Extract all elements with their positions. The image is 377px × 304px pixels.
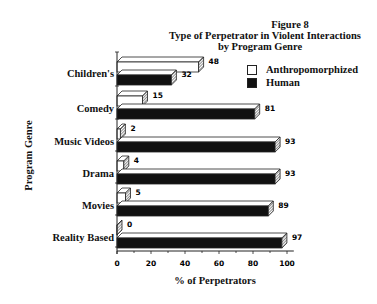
- x-tick-label: 100: [279, 259, 295, 268]
- bar-chart-plot: 48321581293493589097020406080100: [0, 0, 377, 304]
- bar-value-label: 89: [278, 201, 288, 210]
- legend-label: Anthropomorphized: [266, 64, 358, 75]
- bar-value-label: 32: [181, 70, 191, 79]
- bar-human: 32: [117, 70, 192, 85]
- bar-value-label: 4: [134, 156, 139, 165]
- x-tick-label: 40: [180, 259, 190, 268]
- bar-value-label: 0: [127, 220, 132, 229]
- legend-swatch-black: [247, 78, 257, 88]
- bar-value-label: 93: [285, 169, 295, 178]
- bar-human: 93: [117, 137, 296, 152]
- bar-value-label: 15: [153, 91, 163, 100]
- bar-value-label: 97: [292, 233, 302, 242]
- bar-human: 81: [117, 104, 275, 119]
- x-tick-label: 0: [114, 259, 119, 268]
- bar-value-label: 2: [130, 124, 135, 133]
- bar-value-label: 48: [209, 57, 219, 66]
- bar-human: 93: [117, 169, 296, 184]
- bar-value-label: 5: [136, 188, 141, 197]
- x-axis-label: % of Perpetrators: [150, 275, 280, 286]
- chart-legend: Anthropomorphized Human: [247, 63, 358, 89]
- legend-item-human: Human: [247, 76, 358, 89]
- bar-human: 97: [117, 233, 302, 248]
- bar-value-label: 81: [265, 104, 275, 113]
- x-tick-label: 60: [214, 259, 224, 268]
- x-tick-label: 20: [146, 259, 156, 268]
- bar-value-label: 93: [285, 137, 295, 146]
- legend-item-anthropomorphized: Anthropomorphized: [247, 63, 358, 76]
- bar-human: 89: [117, 201, 289, 216]
- x-tick-label: 80: [248, 259, 258, 268]
- legend-swatch-white: [247, 65, 257, 75]
- legend-label: Human: [266, 77, 300, 88]
